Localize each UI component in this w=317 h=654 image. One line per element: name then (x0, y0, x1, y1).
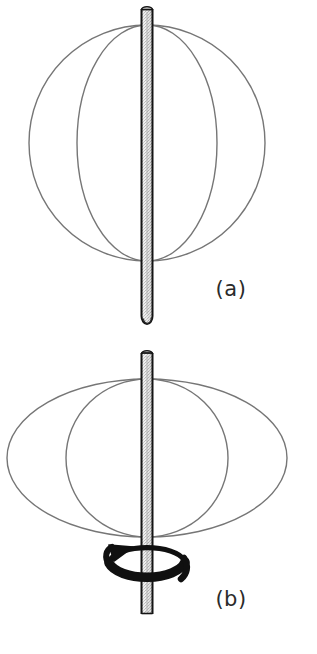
panel-b-group: (b) (7, 351, 287, 614)
figure-container: (a) (0, 0, 317, 654)
axis-rod-a (142, 7, 153, 324)
panel-b-caption: (b) (215, 587, 246, 611)
figure-illustration: (a) (0, 0, 317, 654)
panel-a-group: (a) (29, 7, 265, 324)
panel-a-caption: (a) (216, 277, 247, 301)
